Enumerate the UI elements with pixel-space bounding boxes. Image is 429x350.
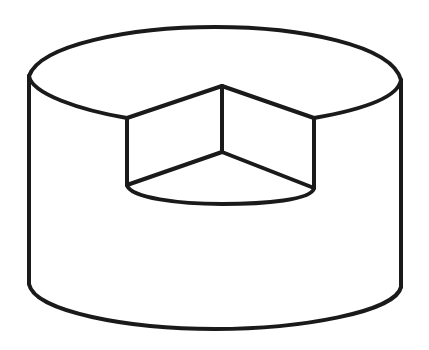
notch-top-left-edge	[127, 86, 222, 118]
notch-top-right-edge	[222, 86, 314, 118]
cylinder-with-notch-figure	[0, 0, 429, 350]
top-ellipse-front-right-arc	[314, 80, 401, 118]
cylinder-bottom-arc	[29, 284, 401, 329]
notch-floor-right-edge	[222, 152, 314, 188]
top-ellipse-back-arc	[29, 27, 401, 80]
notch-floor-left-edge	[127, 152, 222, 185]
ink-group	[29, 27, 401, 329]
notch-floor-front-arc	[127, 185, 314, 204]
top-ellipse-front-left-arc	[29, 76, 127, 118]
cylinder-drawing	[0, 0, 429, 350]
